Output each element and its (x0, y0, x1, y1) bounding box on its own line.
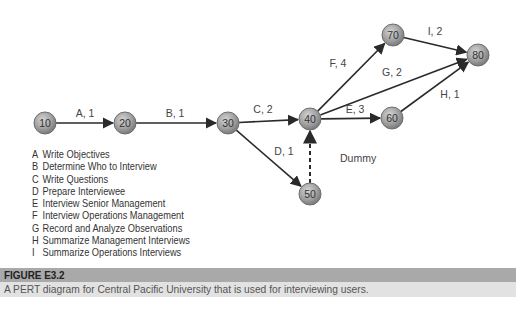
node-label: 50 (304, 188, 316, 200)
legend-letter: C (32, 173, 43, 185)
edge-label: I, 2 (428, 25, 443, 37)
edge-label: Dummy (340, 152, 377, 164)
legend-item: GRecord and Analyze Observations (32, 222, 190, 234)
edge-label: H, 1 (440, 88, 459, 100)
legend-letter: A (32, 148, 43, 160)
edge-labels-layer: A, 1B, 1C, 2D, 1E, 3F, 4G, 2H, 1I, 2Dumm… (76, 25, 460, 164)
edge-label: G, 2 (382, 66, 402, 78)
edge-label: A, 1 (76, 107, 95, 119)
edge-label: E, 3 (346, 103, 365, 115)
figure-caption-header: FIGURE E3.2 (0, 268, 516, 282)
node-60: 60 (381, 107, 403, 129)
figure-caption-body: A PERT diagram for Central Pacific Unive… (0, 282, 516, 297)
legend-text: Prepare Interviewee (43, 185, 126, 197)
legend-item: DPrepare Interviewee (32, 185, 190, 197)
node-label: 20 (119, 117, 131, 129)
legend-item: AWrite Objectives (32, 148, 190, 160)
legend-text: Determine Who to Interview (43, 160, 157, 172)
node-80: 80 (467, 44, 489, 66)
legend-letter: I (32, 246, 43, 258)
figure-caption-text: A PERT diagram for Central Pacific Unive… (4, 283, 369, 296)
legend-letter: F (32, 209, 43, 221)
node-label: 40 (304, 113, 316, 125)
node-70: 70 (382, 24, 404, 46)
legend-text: Write Objectives (43, 148, 110, 160)
legend-text: Write Questions (43, 173, 109, 185)
edge-30-40 (239, 120, 298, 123)
node-label: 10 (39, 117, 51, 129)
edge-label: C, 2 (253, 103, 272, 115)
node-label: 30 (222, 117, 234, 129)
node-label: 60 (386, 112, 398, 124)
legend-item: FInterview Operations Management (32, 209, 190, 221)
legend-letter: H (32, 234, 43, 246)
legend-letter: D (32, 185, 43, 197)
edge-60-80 (401, 62, 468, 111)
node-30: 30 (217, 112, 239, 134)
legend-item: ISummarize Operations Interviews (32, 246, 190, 258)
legend-text: Interview Operations Management (43, 209, 184, 221)
legend-text: Record and Analyze Observations (43, 222, 183, 234)
node-20: 20 (114, 112, 136, 134)
node-10: 10 (34, 112, 56, 134)
node-label: 70 (387, 29, 399, 41)
edge-70-80 (404, 38, 467, 53)
node-50: 50 (299, 183, 321, 205)
activity-legend: AWrite ObjectivesBDetermine Who to Inter… (32, 148, 190, 259)
edge-label: B, 1 (166, 107, 185, 119)
legend-text: Summarize Operations Interviews (43, 246, 182, 258)
legend-item: BDetermine Who to Interview (32, 160, 190, 172)
node-40: 40 (299, 108, 321, 130)
legend-text: Summarize Management Interviews (43, 234, 190, 246)
legend-item: EInterview Senior Management (32, 197, 190, 209)
legend-letter: B (32, 160, 43, 172)
legend-item: CWrite Questions (32, 173, 190, 185)
legend-letter: E (32, 197, 43, 209)
legend-item: HSummarize Management Interviews (32, 234, 190, 246)
legend-text: Interview Senior Management (43, 197, 166, 209)
edge-40-70 (318, 44, 385, 112)
node-label: 80 (472, 49, 484, 61)
edge-40-60 (321, 118, 380, 119)
figure-title: FIGURE E3.2 (4, 268, 65, 282)
legend-letter: G (32, 222, 43, 234)
edge-30-50 (236, 130, 301, 186)
edge-label: F, 4 (330, 57, 347, 69)
edge-label: D, 1 (274, 145, 293, 157)
